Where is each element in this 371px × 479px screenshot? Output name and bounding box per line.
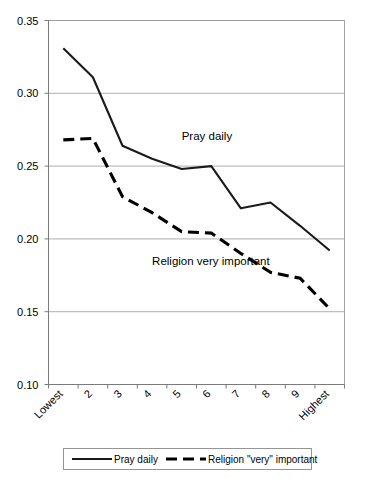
- x-axis-ticks: [49, 385, 345, 389]
- chart-container: 0.350.300.250.200.150.10 Lowest23456789H…: [0, 0, 371, 479]
- y-tick-label: 0.35: [17, 15, 38, 27]
- x-tick-label: 7: [229, 387, 242, 400]
- x-tick-label: 3: [111, 387, 124, 400]
- annotation-pray-daily: Pray daily: [182, 130, 233, 142]
- x-tick-label: 9: [289, 387, 302, 400]
- x-tick-label: 2: [81, 387, 94, 400]
- x-tick-label: 4: [141, 387, 154, 400]
- series-religion-very-important: [63, 138, 329, 308]
- x-axis-tick-labels: Lowest23456789Highest: [32, 387, 332, 422]
- x-tick-label: 6: [200, 387, 213, 400]
- annotation-religion-very-important: Religion very important: [152, 255, 270, 267]
- x-tick-label: 5: [170, 387, 183, 400]
- y-tick-label: 0.20: [17, 233, 38, 245]
- gridlines: [49, 21, 345, 385]
- legend-label-pray-daily: Pray daily: [114, 454, 158, 465]
- y-tick-label: 0.15: [17, 306, 38, 318]
- annotation-label: Pray daily: [182, 130, 233, 142]
- y-tick-label: 0.25: [17, 160, 38, 172]
- legend-label-religion-very-important: Religion "very" important: [208, 454, 318, 465]
- y-axis-tick-labels: 0.350.300.250.200.150.10: [17, 15, 48, 391]
- series-pray-daily: [63, 48, 329, 250]
- legend: Pray daily Religion "very" important: [64, 449, 318, 470]
- line-chart: 0.350.300.250.200.150.10 Lowest23456789H…: [0, 0, 371, 479]
- y-tick-label: 0.30: [17, 87, 38, 99]
- annotation-label: Religion very important: [152, 255, 270, 267]
- x-tick-label: 8: [259, 387, 272, 400]
- x-tick-label: Highest: [296, 387, 331, 422]
- x-tick-label: Lowest: [32, 387, 65, 420]
- plot-frame: [49, 21, 345, 385]
- y-tick-label: 0.10: [17, 379, 38, 391]
